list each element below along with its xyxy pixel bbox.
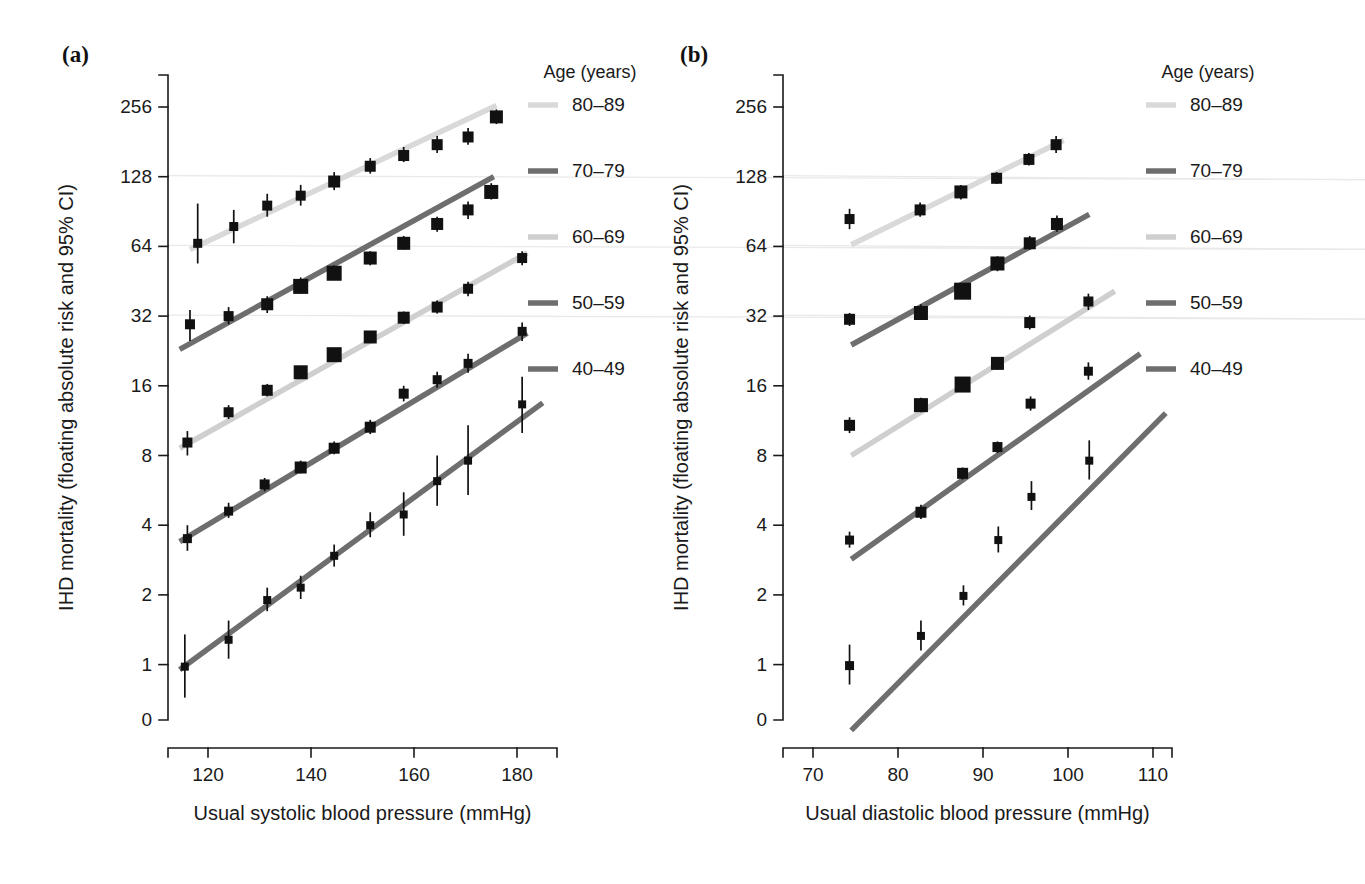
- data-point: [182, 438, 192, 448]
- data-point: [225, 636, 233, 644]
- data-point: [262, 385, 273, 396]
- legend-title: Age (years): [543, 62, 636, 82]
- data-point: [463, 131, 474, 142]
- legend-panel-a: Age (years)80–8970–7960–6950–5940–49: [528, 62, 637, 379]
- data-point: [432, 302, 443, 313]
- legend-label-50-59: 50–59: [572, 292, 625, 313]
- data-point: [844, 314, 855, 325]
- data-point: [518, 327, 527, 336]
- data-point: [915, 204, 926, 215]
- y-tick-label-1: 1: [756, 654, 767, 675]
- fit-line-40-49: [180, 403, 543, 670]
- data-point: [1051, 218, 1063, 230]
- series-40-49: [181, 377, 526, 698]
- data-point: [1051, 139, 1062, 150]
- legend-label-80-89: 80–89: [1190, 94, 1243, 115]
- data-point: [224, 311, 234, 321]
- data-point: [224, 507, 233, 516]
- data-point: [262, 201, 272, 211]
- data-point: [484, 185, 498, 199]
- series-80-89: [193, 109, 503, 263]
- data-point: [294, 365, 308, 379]
- y-tick-label-64: 64: [746, 235, 768, 256]
- fit-line-50-59: [851, 354, 1140, 560]
- x-axis-line: [168, 748, 557, 757]
- data-point: [914, 306, 928, 320]
- chart-canvas: (a)12481632641282560IHD mortality (float…: [0, 0, 1365, 884]
- data-point: [431, 218, 443, 230]
- data-point: [518, 400, 526, 408]
- y-axis-title: IHD mortality (floating absolute risk an…: [670, 184, 692, 611]
- data-point: [365, 161, 376, 172]
- panel-b: (b)12481632641282560IHD mortality (float…: [670, 42, 1365, 824]
- data-point: [261, 298, 273, 310]
- data-point: [463, 204, 474, 215]
- data-point: [260, 479, 270, 489]
- data-point: [914, 398, 928, 412]
- panel-a: (a)12481632641282560IHD mortality (float…: [55, 42, 1365, 824]
- data-point: [955, 377, 971, 393]
- data-point: [365, 422, 376, 433]
- data-point: [295, 462, 307, 474]
- data-point: [844, 420, 855, 431]
- data-point: [915, 507, 926, 518]
- y-axis-line: [159, 75, 168, 720]
- legend-label-40-49: 40–49: [572, 358, 625, 379]
- data-point: [329, 443, 340, 454]
- data-point: [490, 110, 503, 123]
- x-tick-label-100: 100: [1052, 764, 1084, 785]
- data-point: [364, 252, 377, 265]
- data-point: [181, 663, 189, 671]
- data-point: [229, 222, 238, 231]
- y-tick-label-8: 8: [141, 445, 152, 466]
- data-point: [957, 468, 968, 479]
- fit-line-60-69: [180, 253, 528, 448]
- data-point: [364, 330, 377, 343]
- data-point: [1023, 154, 1034, 165]
- data-point: [954, 283, 971, 300]
- data-point: [517, 253, 527, 263]
- data-point: [399, 389, 409, 399]
- x-tick-label-140: 140: [295, 764, 327, 785]
- data-point: [327, 347, 342, 362]
- data-point: [327, 266, 342, 281]
- data-point: [1083, 297, 1093, 307]
- series-80-89: [845, 136, 1062, 229]
- y-tick-label-64: 64: [131, 235, 153, 256]
- fit-line-40-49: [851, 413, 1166, 730]
- data-point: [463, 284, 473, 294]
- x-axis-title: Usual diastolic blood pressure (mmHg): [805, 802, 1150, 824]
- data-point: [954, 185, 967, 198]
- x-tick-label-180: 180: [501, 764, 533, 785]
- legend-label-40-49: 40–49: [1190, 358, 1243, 379]
- y-tick-label-0: 0: [756, 709, 767, 730]
- legend-label-60-69: 60–69: [572, 226, 625, 247]
- legend-label-70-79: 70–79: [572, 160, 625, 181]
- data-point: [992, 442, 1002, 452]
- data-point: [366, 521, 374, 529]
- data-point: [398, 150, 409, 161]
- data-point: [991, 357, 1004, 370]
- data-point: [1026, 399, 1036, 409]
- figure-root: (a)12481632641282560IHD mortality (float…: [0, 0, 1365, 884]
- y-tick-label-4: 4: [756, 514, 767, 535]
- data-point: [397, 237, 410, 250]
- data-point: [917, 632, 925, 640]
- data-point: [432, 139, 443, 150]
- x-tick-label-110: 110: [1138, 764, 1168, 785]
- y-tick-label-0: 0: [141, 709, 152, 730]
- data-point: [845, 536, 854, 545]
- data-point: [1024, 237, 1036, 249]
- data-point: [193, 239, 202, 248]
- y-tick-label-128: 128: [120, 166, 152, 187]
- data-point: [994, 536, 1002, 544]
- y-tick-label-32: 32: [746, 305, 767, 326]
- legend-label-70-79: 70–79: [1190, 160, 1243, 181]
- x-axis-title: Usual systolic blood pressure (mmHg): [194, 802, 532, 824]
- fit-line-70-79: [851, 214, 1089, 345]
- data-point: [293, 279, 308, 294]
- legend-label-50-59: 50–59: [1190, 292, 1243, 313]
- data-point: [845, 214, 855, 224]
- data-point: [433, 477, 441, 485]
- data-point: [1085, 457, 1093, 465]
